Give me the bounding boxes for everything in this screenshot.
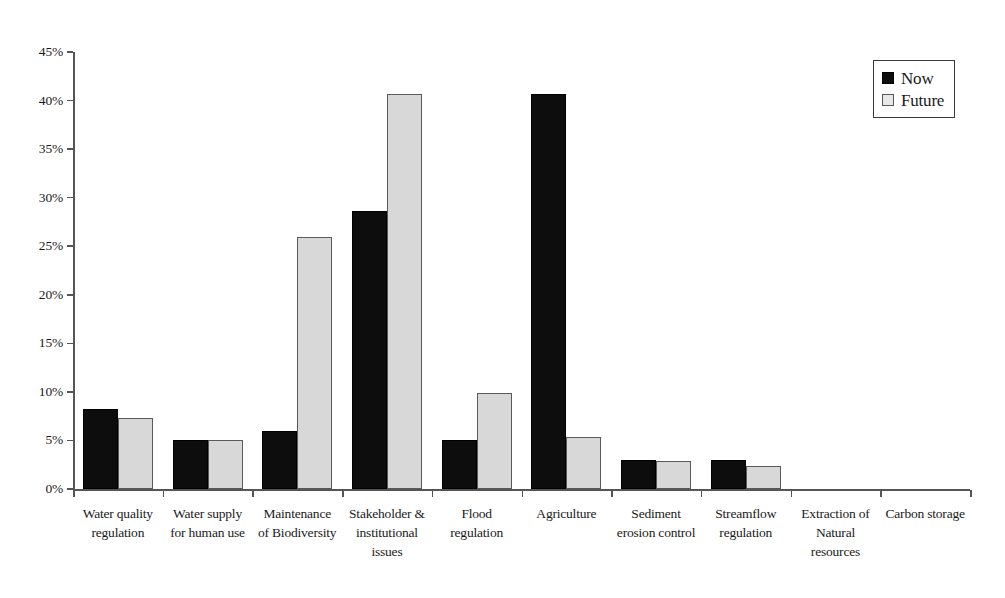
legend-swatch-future-icon — [882, 94, 894, 106]
y-axis-tick-label: 10% — [20, 385, 63, 399]
bar-chart: 0%5%10%15%20%25%30%35%40%45% Water quali… — [0, 0, 1005, 598]
x-axis-category-label: Streamflowregulation — [695, 504, 797, 542]
x-axis-category-label-line: Natural — [785, 523, 887, 542]
x-axis-category-label-line: Stakeholder & — [336, 504, 438, 523]
x-axis-category-label: Floodregulation — [426, 504, 528, 542]
x-axis-category-label-line: Agriculture — [516, 504, 618, 523]
bar-group — [262, 52, 332, 489]
bar-future — [566, 437, 601, 489]
bar-group — [173, 52, 243, 489]
y-axis-tick-label: 45% — [20, 45, 63, 59]
bar-future — [387, 94, 422, 489]
x-axis-category-label-line: Extraction of — [785, 504, 887, 523]
x-axis-category-label-line: Carbon storage — [874, 504, 976, 523]
bar-future — [118, 418, 153, 489]
bar-now — [173, 440, 208, 489]
x-axis-category-label: Water qualityregulation — [67, 504, 169, 542]
chart-legend: NowFuture — [873, 60, 955, 118]
bar-now — [262, 431, 297, 489]
x-axis-category-label: Extraction ofNaturalresources — [785, 504, 887, 561]
x-axis-category-label-line: Maintenance — [246, 504, 348, 523]
bar-now — [83, 409, 118, 489]
bar-future — [477, 393, 512, 489]
x-axis-category-label-line: Water supply — [157, 504, 259, 523]
x-axis-category-label-line: erosion control — [605, 523, 707, 542]
x-axis-category-label-line: institutional — [336, 523, 438, 542]
x-axis-tick-mark — [73, 490, 75, 497]
bar-now — [442, 440, 477, 489]
plot-area — [73, 52, 970, 489]
x-axis-category-label: Agriculture — [516, 504, 618, 523]
x-axis-category-label-line: Flood — [426, 504, 528, 523]
bar-group — [621, 52, 691, 489]
y-axis-tick-label: 15% — [20, 336, 63, 350]
bar-now — [711, 460, 746, 489]
y-axis-tick-label: 40% — [20, 94, 63, 108]
x-axis-category-label-line: regulation — [67, 523, 169, 542]
x-axis-category-label: Sedimenterosion control — [605, 504, 707, 542]
bar-future — [208, 440, 243, 489]
bar-future — [656, 461, 691, 489]
x-axis-tick-mark — [880, 490, 882, 497]
x-axis-category-label: Stakeholder &institutionalissues — [336, 504, 438, 561]
y-axis-tick-label: 0% — [20, 482, 63, 496]
bar-future — [297, 237, 332, 489]
x-axis-category-label: Carbon storage — [874, 504, 976, 523]
x-axis-tick-mark — [432, 490, 434, 497]
legend-item-future: Future — [882, 89, 944, 111]
bar-now — [621, 460, 656, 489]
x-axis-tick-mark — [970, 490, 972, 497]
y-axis-tick-label: 30% — [20, 191, 63, 205]
bar-now — [531, 94, 566, 489]
x-axis-tick-mark — [791, 490, 793, 497]
x-axis-tick-mark — [611, 490, 613, 497]
bar-future — [746, 466, 781, 489]
x-axis-category-label-line: resources — [785, 542, 887, 561]
y-axis-tick-label: 35% — [20, 142, 63, 156]
x-axis-category-label: Maintenanceof Biodiversity — [246, 504, 348, 542]
x-axis-tick-mark — [163, 490, 165, 497]
x-axis-category-label-line: for human use — [157, 523, 259, 542]
x-axis-category-label-line: Sediment — [605, 504, 707, 523]
x-axis-category-label-line: regulation — [695, 523, 797, 542]
y-axis-tick-label: 20% — [20, 288, 63, 302]
y-axis-tick-label: 5% — [20, 433, 63, 447]
x-axis-tick-mark — [252, 490, 254, 497]
x-axis-tick-mark — [701, 490, 703, 497]
legend-item-now: Now — [882, 67, 944, 89]
bar-group — [442, 52, 512, 489]
bar-group — [711, 52, 781, 489]
x-axis-category-label-line: Water quality — [67, 504, 169, 523]
x-axis-category-label-line: of Biodiversity — [246, 523, 348, 542]
y-axis-tick-label: 25% — [20, 239, 63, 253]
bar-group — [531, 52, 601, 489]
x-axis-category-label: Water supplyfor human use — [157, 504, 259, 542]
x-axis-tick-mark — [522, 490, 524, 497]
x-axis-category-label-line: Streamflow — [695, 504, 797, 523]
legend-swatch-now-icon — [882, 72, 894, 84]
bar-now — [352, 211, 387, 489]
x-axis-category-label-line: regulation — [426, 523, 528, 542]
legend-label: Future — [901, 92, 944, 109]
x-axis-tick-mark — [342, 490, 344, 497]
legend-label: Now — [901, 70, 933, 87]
bar-group — [352, 52, 422, 489]
x-axis-category-label-line: issues — [336, 542, 438, 561]
bar-group — [800, 52, 870, 489]
bar-group — [83, 52, 153, 489]
